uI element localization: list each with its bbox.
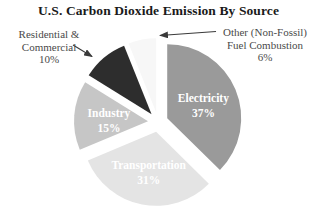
callout-label-line: Commercial xyxy=(2,41,96,54)
callout-percent: 6% xyxy=(213,51,317,64)
callout-label-line: Residential & xyxy=(2,28,96,41)
callout-label-line: Other (Non-Fossil) xyxy=(213,26,317,39)
pie-chart-figure: U.S. Carbon Dioxide Emission By Source E… xyxy=(0,0,317,212)
callout-other-non-fossil: Other (Non-Fossil) Fuel Combustion 6% xyxy=(213,26,317,64)
callout-residential-commercial: Residential & Commercial 10% xyxy=(2,28,96,66)
other-callout-arrow-icon xyxy=(160,32,216,36)
callout-label-line: Fuel Combustion xyxy=(213,39,317,52)
callout-percent: 10% xyxy=(2,53,96,66)
